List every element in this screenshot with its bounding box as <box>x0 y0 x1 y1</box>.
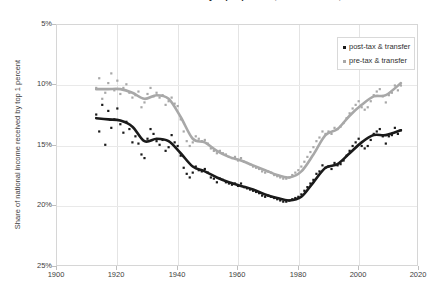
data-point <box>149 128 151 130</box>
data-point <box>155 92 157 94</box>
data-point <box>315 173 317 175</box>
data-point <box>140 106 142 108</box>
y-tick-label: 25% <box>10 262 52 270</box>
trend-line-pre-tax <box>96 83 401 177</box>
data-point <box>379 128 381 130</box>
data-point <box>98 77 100 79</box>
data-point <box>186 173 188 175</box>
legend-label-pre-tax: pre-tax & transfer <box>349 56 407 66</box>
y-tick-label: 10% <box>10 80 52 88</box>
data-point <box>183 167 185 169</box>
data-point <box>128 128 130 130</box>
data-point <box>149 87 151 89</box>
data-point <box>101 98 103 100</box>
data-point <box>394 127 396 129</box>
data-point <box>146 93 148 95</box>
data-point <box>177 145 179 147</box>
data-point <box>155 140 157 142</box>
legend-item-post-tax[interactable]: post-tax & transfer <box>342 42 411 52</box>
data-point <box>95 113 97 115</box>
data-point <box>143 157 145 159</box>
x-tick-label: 1900 <box>36 271 76 279</box>
data-point <box>189 145 191 147</box>
data-point <box>186 140 188 142</box>
data-point <box>116 107 118 109</box>
data-point <box>367 145 369 147</box>
data-point <box>240 157 242 159</box>
x-tick-label: 1960 <box>217 271 257 279</box>
data-point <box>98 130 100 132</box>
data-point <box>352 107 354 109</box>
data-point <box>158 144 160 146</box>
data-point <box>165 150 167 152</box>
data-point <box>107 82 109 84</box>
data-point <box>189 176 191 178</box>
x-tick-label: 1920 <box>96 271 136 279</box>
data-point <box>358 138 360 140</box>
x-tick-label: 1980 <box>278 271 318 279</box>
x-tick-label: 1940 <box>157 271 197 279</box>
y-tick-label: 15% <box>10 141 52 149</box>
data-point <box>364 147 366 149</box>
data-point <box>376 130 378 132</box>
data-point <box>192 141 194 143</box>
data-point <box>174 141 176 143</box>
data-point <box>355 141 357 143</box>
data-point <box>303 161 305 163</box>
data-point <box>318 136 320 138</box>
data-point <box>198 138 200 140</box>
data-point <box>216 181 218 183</box>
data-point <box>107 110 109 112</box>
data-point <box>385 101 387 103</box>
trend-line-post-tax <box>96 118 401 200</box>
data-point <box>367 106 369 108</box>
data-point <box>192 172 194 174</box>
data-point <box>297 169 299 171</box>
data-point <box>171 97 173 99</box>
data-point <box>370 100 372 102</box>
data-point <box>376 90 378 92</box>
data-point <box>119 123 121 125</box>
data-point <box>137 142 139 144</box>
data-point <box>300 165 302 167</box>
x-tick-label: 2020 <box>398 271 438 279</box>
data-point <box>168 146 170 148</box>
data-point <box>333 127 335 129</box>
legend-swatch-pre-tax <box>343 60 346 63</box>
data-point <box>358 100 360 102</box>
data-point <box>330 168 332 170</box>
x-tick-label: 2000 <box>338 271 378 279</box>
data-point <box>131 141 133 143</box>
data-point <box>309 151 311 153</box>
chart-figure: Share of national income received by top… <box>0 0 439 290</box>
data-point <box>110 72 112 74</box>
y-tick-label: 20% <box>10 201 52 209</box>
data-point <box>306 156 308 158</box>
data-point <box>143 101 145 103</box>
data-point <box>122 132 124 134</box>
data-point <box>240 182 242 184</box>
data-point <box>294 172 296 174</box>
data-point <box>104 92 106 94</box>
data-point <box>364 109 366 111</box>
data-point <box>213 178 215 180</box>
data-point <box>134 135 136 137</box>
data-point <box>183 130 185 132</box>
data-point <box>397 133 399 135</box>
data-point <box>397 89 399 91</box>
legend-item-pre-tax[interactable]: pre-tax & transfer <box>342 56 411 66</box>
data-point <box>119 93 121 95</box>
data-point <box>110 127 112 129</box>
data-point <box>315 140 317 142</box>
data-point <box>165 104 167 106</box>
data-point <box>116 80 118 82</box>
data-point <box>370 139 372 141</box>
data-point <box>361 145 363 147</box>
data-point <box>264 196 266 198</box>
data-point <box>352 145 354 147</box>
data-point <box>158 97 160 99</box>
y-tick-label: 5% <box>10 20 52 28</box>
data-point <box>333 162 335 164</box>
data-point <box>312 146 314 148</box>
data-point <box>137 90 139 92</box>
